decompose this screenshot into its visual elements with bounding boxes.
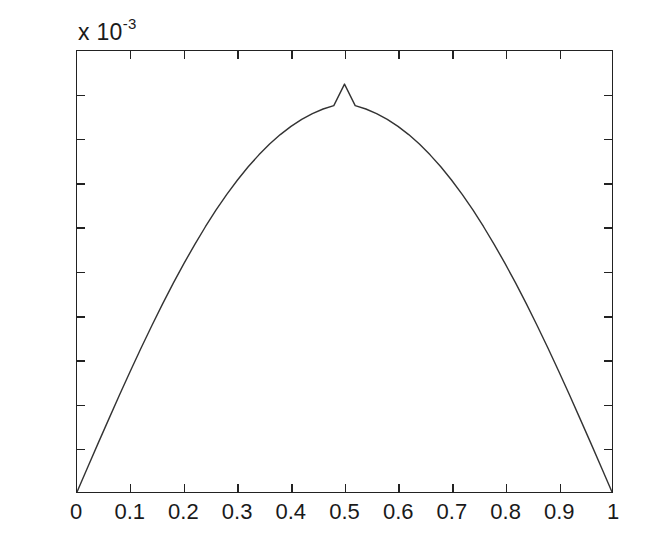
plot-area [76,50,613,493]
x-tick-label: 0.1 [114,501,145,523]
x-tick-mark [398,51,400,59]
x-tick-label: 0.3 [222,501,253,523]
y-tick-mark [604,405,612,407]
exponent-mantissa: x 10 [78,19,123,45]
x-tick-mark [291,484,293,492]
x-tick-mark [237,51,239,59]
figure-canvas: x 10-3 00.20.40.60.811.21.41.61.8200.10.… [0,0,645,546]
x-tick-mark [237,484,239,492]
x-tick-label: 0.7 [437,501,468,523]
y-tick-mark [77,183,85,185]
y-tick-mark [77,227,85,229]
x-tick-mark [184,484,186,492]
x-tick-mark [345,484,347,492]
x-tick-label: 0.4 [276,501,307,523]
y-tick-mark [604,183,612,185]
y-tick-mark [77,139,85,141]
y-tick-mark [604,95,612,97]
x-tick-mark [560,484,562,492]
data-curve [77,51,612,492]
x-tick-label: 0.2 [168,501,199,523]
x-tick-label: 0.9 [544,501,575,523]
y-tick-mark [604,449,612,451]
x-tick-mark [345,51,347,59]
exponent-power: -3 [123,15,137,32]
x-tick-label: 0 [70,501,82,523]
x-tick-mark [506,51,508,59]
x-tick-mark [130,484,132,492]
curve-polyline [77,84,612,492]
y-tick-mark [77,405,85,407]
x-tick-mark [184,51,186,59]
x-tick-mark [452,51,454,59]
x-tick-mark [398,484,400,492]
y-tick-mark [604,227,612,229]
y-tick-mark [77,449,85,451]
y-tick-mark [77,316,85,318]
x-tick-label: 0.5 [329,501,360,523]
y-tick-mark [604,272,612,274]
x-tick-mark [452,484,454,492]
y-tick-mark [604,360,612,362]
x-tick-label: 0.6 [383,501,414,523]
x-tick-mark [291,51,293,59]
x-tick-label: 0.8 [490,501,521,523]
x-tick-mark [560,51,562,59]
y-tick-mark [604,316,612,318]
y-tick-mark [77,272,85,274]
y-tick-mark [77,95,85,97]
x-tick-mark [130,51,132,59]
y-axis-exponent-label: x 10-3 [78,18,137,44]
x-tick-label: 1 [607,501,619,523]
y-tick-mark [604,139,612,141]
x-tick-mark [506,484,508,492]
y-tick-mark [77,360,85,362]
